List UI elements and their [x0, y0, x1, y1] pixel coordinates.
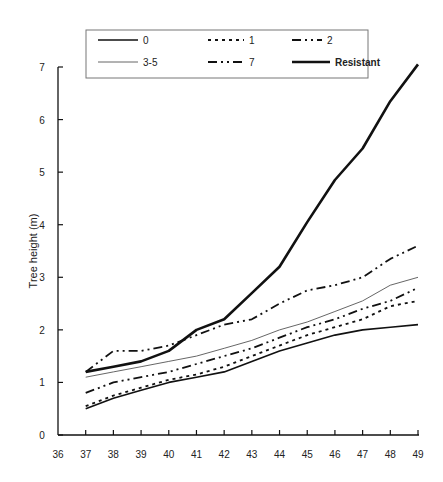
x-tick-label: 47	[357, 449, 369, 460]
y-tick-label: 5	[39, 167, 45, 178]
legend-label: 1	[249, 35, 255, 46]
x-tick-label: 36	[52, 449, 64, 460]
x-tick-label: 40	[163, 449, 175, 460]
legend-label: Resistant	[335, 57, 381, 68]
y-tick-label: 7	[39, 62, 45, 73]
legend-label: 0	[143, 35, 149, 46]
x-tick-label: 42	[219, 449, 231, 460]
y-tick-label: 6	[39, 115, 45, 126]
series-line-1	[86, 301, 418, 406]
legend: 0123-57Resistant	[86, 30, 381, 78]
plot-area	[86, 64, 418, 408]
legend-box	[86, 30, 368, 78]
series-line-resistant	[86, 64, 418, 372]
x-tick-label: 48	[385, 449, 397, 460]
x-tick-label: 39	[136, 449, 148, 460]
axes: 01234567 3637383940414243444546474849	[39, 62, 424, 460]
legend-label: 2	[327, 35, 333, 46]
series-line-0	[86, 325, 418, 409]
y-tick-label: 4	[39, 220, 45, 231]
series-line-7	[86, 246, 418, 372]
x-tick-label: 37	[80, 449, 92, 460]
y-tick-label: 2	[39, 325, 45, 336]
x-tick-label: 46	[329, 449, 341, 460]
legend-label: 7	[249, 57, 255, 68]
y-tick-label: 3	[39, 272, 45, 283]
x-tick-label: 38	[108, 449, 120, 460]
x-tick-label: 44	[274, 449, 286, 460]
y-axis-ticks: 01234567	[39, 62, 63, 441]
y-tick-label: 0	[39, 430, 45, 441]
y-tick-label: 1	[39, 377, 45, 388]
x-tick-label: 45	[302, 449, 314, 460]
x-tick-label: 43	[246, 449, 258, 460]
x-tick-label: 49	[412, 449, 424, 460]
x-tick-label: 41	[191, 449, 203, 460]
line-chart: Tree height (m) 01234567 363738394041424…	[0, 0, 443, 482]
y-axis-title: Tree height (m)	[27, 214, 39, 289]
legend-label: 3-5	[143, 57, 158, 68]
